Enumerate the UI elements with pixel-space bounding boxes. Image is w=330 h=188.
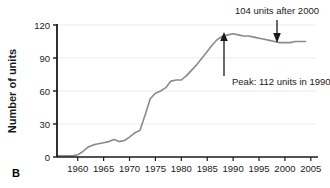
x-tick-label-1995: 1995 [248, 163, 269, 174]
x-tick-label-1970: 1970 [119, 163, 140, 174]
post-2000-annotation-label: 104 units after 2000 [235, 5, 319, 16]
x-tick-label-1960: 1960 [67, 163, 88, 174]
x-tick-label-1990: 1990 [223, 163, 244, 174]
x-tick-label-1980: 1980 [171, 163, 192, 174]
line-chart: 0306090120 19601965197019751980198519901… [0, 0, 330, 188]
x-tick-label-1985: 1985 [197, 163, 218, 174]
post-2000-annotation: 104 units after 2000 [235, 5, 319, 43]
x-axis-tick-labels: 1960196519701975198019851990199520002005 [67, 163, 321, 174]
y-tick-label-120: 120 [34, 20, 50, 31]
x-tick-label-2005: 2005 [300, 163, 321, 174]
peak-annotation-label: Peak: 112 units in 1990 [232, 76, 330, 87]
y-axis-tick-labels: 0306090120 [34, 20, 50, 163]
panel-label-b: B [12, 168, 20, 179]
y-tick-label-60: 60 [39, 86, 50, 97]
x-tick-label-1975: 1975 [145, 163, 166, 174]
y-tick-label-0: 0 [45, 152, 50, 163]
peak-annotation: Peak: 112 units in 1990 [220, 32, 330, 87]
x-tick-label-1965: 1965 [93, 163, 114, 174]
y-axis-title: Number of units [6, 49, 18, 133]
y-tick-label-90: 90 [39, 53, 50, 64]
x-tick-label-2000: 2000 [274, 163, 295, 174]
axes [53, 24, 318, 161]
data-series-line [57, 34, 306, 156]
y-tick-label-30: 30 [39, 119, 50, 130]
figure-panel-b: 0306090120 19601965197019751980198519901… [0, 0, 330, 188]
